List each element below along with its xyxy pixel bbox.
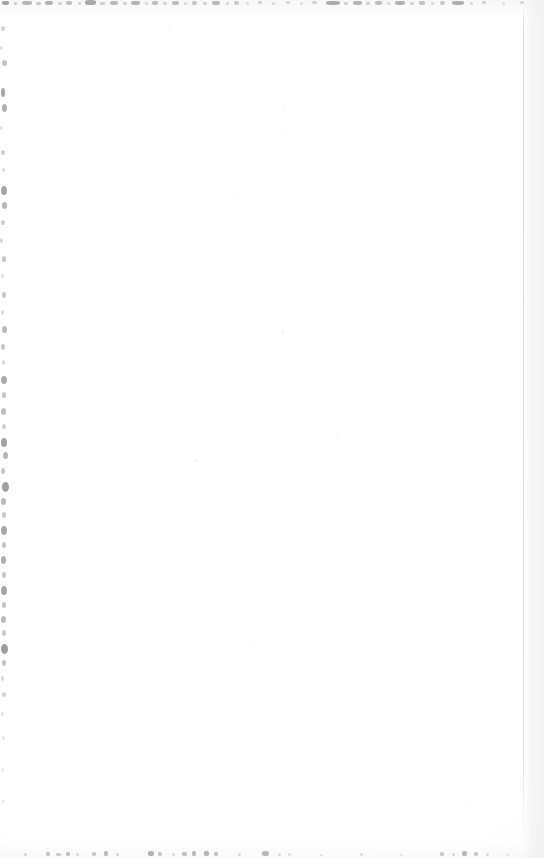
paper-surface	[0, 0, 544, 858]
top-edge-shading	[0, 0, 544, 26]
right-scan-seam	[523, 0, 524, 858]
right-margin-strip	[524, 0, 544, 858]
scanned-page	[0, 0, 544, 858]
bottom-edge-shading	[0, 836, 544, 858]
